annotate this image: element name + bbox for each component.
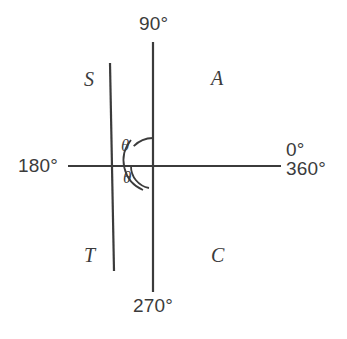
axis-label-360-degrees: 360° bbox=[286, 159, 326, 178]
theta-label-lower: θ bbox=[123, 169, 131, 186]
axis-label-180-degrees: 180° bbox=[18, 156, 58, 175]
quadrant-label-cosine: C bbox=[211, 245, 224, 265]
quadrant-label-sine: S bbox=[84, 69, 94, 89]
theta-label-upper: θ bbox=[121, 137, 129, 154]
axis-label-0-degrees: 0° bbox=[286, 140, 305, 159]
axis-label-90-degrees: 90° bbox=[139, 14, 168, 33]
trig-quadrant-diagram: 90° 270° 180° 0° 360° S A T C θ θ bbox=[0, 0, 347, 339]
quadrant-label-tangent: T bbox=[84, 245, 95, 265]
quadrant-label-all: A bbox=[211, 68, 223, 88]
axis-label-270-degrees: 270° bbox=[133, 296, 173, 315]
upper-angle-arc bbox=[134, 138, 153, 146]
